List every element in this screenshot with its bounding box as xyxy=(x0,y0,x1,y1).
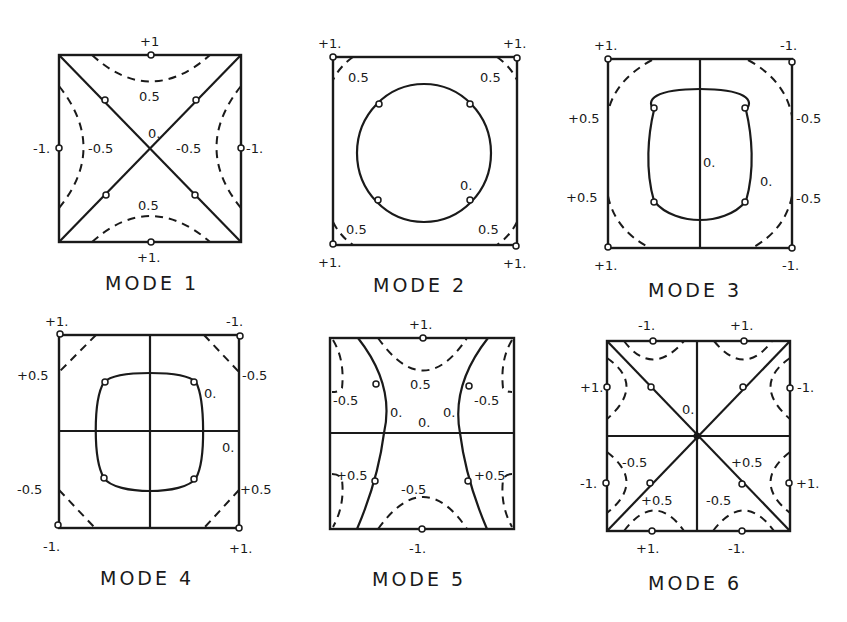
node-marker xyxy=(191,476,197,482)
mode-2-label-circle: 0. xyxy=(460,178,472,193)
mode-4-label-axis: 0. xyxy=(222,440,234,455)
mode-3-panel: +1. -1. +1. -1. +0.5 +0.5 -0.5 -0.5 0. 0… xyxy=(566,38,821,301)
node-marker xyxy=(420,335,426,341)
node-marker xyxy=(467,197,473,203)
mode-4-contour-tr xyxy=(204,335,239,372)
node-marker xyxy=(789,245,795,251)
mode-3-contour-tr xyxy=(748,60,792,116)
mode-3-label-corner-br: -1. xyxy=(782,258,799,273)
node-marker xyxy=(330,54,336,60)
node-marker xyxy=(789,59,795,65)
node-marker xyxy=(651,199,657,205)
node-marker xyxy=(605,56,611,62)
mode-1-contour-bottom xyxy=(92,216,210,242)
node-marker xyxy=(742,105,748,111)
mode-3-label-left-upper: +0.5 xyxy=(568,111,600,126)
mode-3-contour-bl xyxy=(608,196,650,248)
node-marker xyxy=(514,55,520,61)
mode-1-label-lower: 0.5 xyxy=(138,198,159,213)
mode-2-label-corner-bl: +1. xyxy=(318,255,341,270)
mode-1-contour-left xyxy=(59,86,84,208)
mode-1-label-inner-right: -0.5 xyxy=(176,141,201,156)
node-marker xyxy=(148,239,154,245)
mode-6-label-top-left: -1. xyxy=(638,318,655,333)
mode-4-panel: +1. -1. -1. +1. +0.5 -0.5 -0.5 +0.5 0. 0… xyxy=(17,314,272,589)
node-marker xyxy=(376,101,382,107)
node-marker xyxy=(786,480,792,486)
node-marker xyxy=(604,384,610,390)
mode-4-label-ring: 0. xyxy=(204,386,216,401)
mode-4-contour-tl xyxy=(59,335,96,372)
node-marker xyxy=(238,145,244,151)
mode-1-label-top: +1 xyxy=(140,34,159,49)
node-marker xyxy=(237,333,243,339)
node-marker xyxy=(148,52,154,58)
node-marker xyxy=(651,105,657,111)
mode-6-label-right-lower: +1. xyxy=(796,476,819,491)
mode-3-label-corner-bl: +1. xyxy=(594,258,617,273)
mode-1-contour-right xyxy=(217,86,242,208)
mode-2-label-tl-contour: 0.5 xyxy=(348,70,369,85)
mode-2-label-tr-contour: 0.5 xyxy=(480,70,501,85)
node-marker xyxy=(102,97,108,103)
node-marker xyxy=(742,199,748,205)
mode-6-label-left-upper: +1. xyxy=(580,380,603,395)
node-marker xyxy=(375,197,381,203)
mode-4-label-corner-br: +1. xyxy=(229,541,252,556)
mode-6-label-center: 0. xyxy=(682,402,694,417)
node-marker xyxy=(466,383,472,389)
node-marker xyxy=(605,244,611,250)
mode-5-contour-bottom xyxy=(378,497,467,529)
node-marker xyxy=(649,528,655,534)
node-marker xyxy=(373,381,379,387)
node-marker xyxy=(513,243,519,249)
mode-4-label-right-lower: +0.5 xyxy=(240,482,272,497)
node-marker xyxy=(372,478,378,484)
mode-3-label-center: 0. xyxy=(703,155,715,170)
mode-6-center-node xyxy=(694,433,701,440)
node-marker xyxy=(56,145,62,151)
mode-4-contour-br xyxy=(204,490,239,528)
mode-2-boundary xyxy=(333,57,517,245)
mode-5-label-lower-right: +0.5 xyxy=(474,468,506,483)
mode-5-label-zero-right: 0. xyxy=(443,405,455,420)
mode-2-label-br-contour: 0.5 xyxy=(478,222,499,237)
mode-6-label-ll-a: -0.5 xyxy=(622,455,647,470)
mode-shapes-figure: +1 +1. -1. -1. 0. 0.5 0.5 -0.5 -0.5 MODE… xyxy=(0,0,847,622)
node-marker xyxy=(101,475,107,481)
node-marker xyxy=(787,385,793,391)
mode-4-label-corner-tr: -1. xyxy=(226,314,243,329)
mode-1-label-center: 0. xyxy=(148,126,160,141)
mode-3-label-right-lower: -0.5 xyxy=(796,191,821,206)
mode-3-label-corner-tr: -1. xyxy=(780,38,797,53)
mode-1-label-upper: 0.5 xyxy=(139,89,160,104)
node-marker xyxy=(419,526,425,532)
mode-4-label-right-upper: -0.5 xyxy=(242,368,267,383)
node-marker xyxy=(102,379,108,385)
node-marker xyxy=(740,384,746,390)
mode-6-label-bottom-right: -1. xyxy=(728,541,745,556)
mode-6-label-bottom-left: +1. xyxy=(636,541,659,556)
mode-4-label-corner-tl: +1. xyxy=(45,314,68,329)
mode-2-contour-br xyxy=(497,222,517,245)
mode-6-label-lr-a: +0.5 xyxy=(731,455,763,470)
mode-5-label-upper-center: 0.5 xyxy=(410,377,431,392)
mode-2-label-corner-br: +1. xyxy=(503,256,526,271)
mode-3-contour-br xyxy=(752,196,792,248)
mode-5-contour-tr xyxy=(502,340,512,392)
node-marker xyxy=(55,522,61,528)
mode-5-label-upper-right: -0.5 xyxy=(474,393,499,408)
mode-6-label-lr-b: -0.5 xyxy=(706,493,731,508)
mode-3-label-ring: 0. xyxy=(760,174,772,189)
mode-5-contour-top xyxy=(378,338,467,371)
mode-5-label-lower-center: -0.5 xyxy=(401,482,426,497)
mode-3-title: MODE 3 xyxy=(648,279,742,301)
node-marker xyxy=(741,338,747,344)
mode-5-label-upper-left: -0.5 xyxy=(333,393,358,408)
node-marker xyxy=(191,379,197,385)
node-marker xyxy=(193,97,199,103)
mode-2-panel: +1. +1. +1. +1. 0.5 0.5 0.5 0.5 0. MODE … xyxy=(318,36,526,296)
mode-4-label-left-lower: -0.5 xyxy=(17,482,42,497)
mode-1-contour-top xyxy=(92,55,210,82)
node-marker xyxy=(739,528,745,534)
